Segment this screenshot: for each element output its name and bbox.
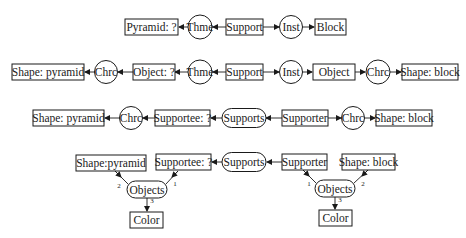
- node-label: Supportee: ?: [154, 112, 212, 125]
- node-label: Inst: [282, 66, 300, 78]
- edge-arrow: [172, 171, 178, 177]
- node-inst[interactable]: Inst: [280, 61, 303, 84]
- node-supportee-q[interactable]: Supportee: ?: [154, 110, 212, 126]
- node-label: Shape: pyramid: [12, 66, 85, 79]
- node-supporter[interactable]: Supporter: [282, 154, 328, 170]
- row-2: Shape: pyramid Chrc Object: ? Thme Suppo…: [12, 60, 460, 84]
- node-color-left[interactable]: Color: [130, 212, 163, 228]
- node-chrc[interactable]: Chrc: [120, 107, 143, 130]
- node-label: Chrc: [120, 112, 142, 124]
- node-objects-left[interactable]: Objects: [127, 181, 167, 198]
- node-label: Color: [133, 214, 159, 226]
- node-label: Shape: block: [400, 66, 460, 79]
- node-label: Thme: [187, 21, 214, 33]
- edge-label: 1: [173, 180, 177, 188]
- row-1: Pyramid: ? Thme Support Inst Block: [125, 15, 346, 39]
- node-label: Pyramid: ?: [126, 21, 176, 34]
- node-object-q[interactable]: Object: ?: [133, 64, 175, 80]
- node-label: Chrc: [342, 112, 364, 124]
- edge-arrow: [303, 170, 309, 176]
- node-chrc[interactable]: Chrc: [95, 61, 118, 84]
- node-shape-pyramid[interactable]: Shape: pyramid: [12, 64, 85, 80]
- node-shape-block[interactable]: Shape: block: [374, 110, 434, 126]
- node-object[interactable]: Object: [313, 64, 355, 80]
- node-label: Object: ?: [133, 66, 175, 79]
- row-3: Shape: pyramid Chrc Supportee: ? Support…: [32, 107, 434, 130]
- node-label: Objects: [317, 183, 353, 196]
- node-label: Support: [226, 21, 263, 34]
- node-support[interactable]: Support: [226, 64, 264, 80]
- node-objects-right[interactable]: Objects: [315, 180, 355, 197]
- node-label: Shape: pyramid: [32, 112, 105, 125]
- row-4: 2 1 3 1 2 3 Shape:pyramid Supportee: ? S…: [76, 153, 399, 229]
- node-label: Chrc: [367, 66, 389, 78]
- edge-label: 1: [307, 180, 311, 188]
- node-label: Shape:pyramid: [76, 157, 146, 170]
- node-label: Supporter: [282, 112, 328, 125]
- node-shape-block[interactable]: Shape: block: [400, 64, 460, 80]
- node-label: Shape: block: [374, 112, 434, 125]
- node-block[interactable]: Block: [315, 19, 346, 35]
- node-label: Thme: [187, 66, 214, 78]
- node-pyramid-q[interactable]: Pyramid: ?: [125, 19, 178, 35]
- node-supportee-q[interactable]: Supportee: ?: [155, 154, 213, 170]
- node-label: Block: [317, 21, 345, 33]
- node-supporter[interactable]: Supporter: [282, 110, 328, 126]
- node-label: Object: [319, 66, 350, 79]
- node-shape-block[interactable]: Shape: block: [339, 154, 399, 170]
- node-label: Shape: block: [339, 156, 399, 169]
- edge-arrow: [362, 170, 368, 176]
- node-supports[interactable]: Supports: [222, 109, 266, 128]
- node-shape-pyramid[interactable]: Shape: pyramid: [32, 110, 105, 126]
- node-support[interactable]: Support: [226, 19, 264, 35]
- node-label: Supporter: [282, 156, 328, 169]
- node-label: Inst: [282, 21, 300, 33]
- node-label: Objects: [129, 184, 165, 197]
- node-label: Chrc: [95, 66, 117, 78]
- node-supports[interactable]: Supports: [222, 153, 266, 172]
- node-label: Color: [322, 212, 348, 224]
- node-chrc[interactable]: Chrc: [342, 107, 365, 130]
- node-label: Supports: [224, 112, 265, 125]
- node-thme[interactable]: Thme: [187, 60, 214, 84]
- edge-arrow: [115, 171, 121, 177]
- node-label: Supports: [224, 156, 265, 169]
- node-label: Supportee: ?: [155, 156, 213, 169]
- node-thme[interactable]: Thme: [187, 15, 214, 39]
- node-label: Support: [226, 66, 263, 79]
- edge-label: 2: [117, 182, 121, 190]
- node-color-right[interactable]: Color: [319, 210, 352, 226]
- node-shape-pyramid[interactable]: Shape:pyramid: [76, 155, 146, 171]
- node-inst[interactable]: Inst: [280, 16, 303, 39]
- node-chrc[interactable]: Chrc: [366, 60, 390, 84]
- conceptual-graph-diagram: Pyramid: ? Thme Support Inst Block: [0, 0, 466, 238]
- edge-label: 2: [361, 180, 365, 188]
